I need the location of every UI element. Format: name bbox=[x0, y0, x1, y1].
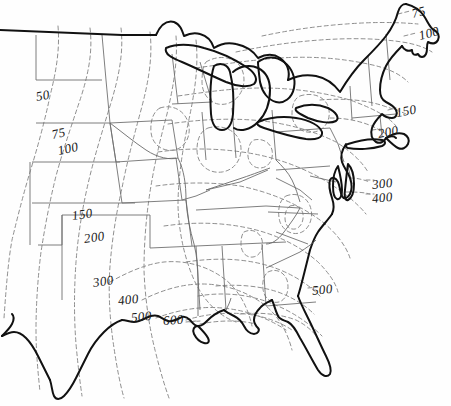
ohio-river bbox=[206, 168, 270, 190]
border-ny-nj bbox=[330, 128, 338, 144]
border-nh-me bbox=[386, 34, 390, 80]
contour-600b bbox=[200, 321, 256, 324]
contour-ne-150 bbox=[196, 57, 408, 82]
contour-loop-al bbox=[263, 270, 288, 302]
contour-label-75-1: 75 bbox=[50, 124, 67, 143]
border-va-nc bbox=[268, 212, 318, 214]
rio-grande bbox=[2, 332, 50, 380]
contour-label-600-8: 600 bbox=[162, 312, 184, 329]
contour-e-250 bbox=[168, 119, 368, 172]
contour-label-500-7: 500 bbox=[130, 308, 152, 326]
missouri-river bbox=[110, 123, 178, 159]
border-ne-ia bbox=[110, 123, 116, 162]
border-sc-ga bbox=[266, 252, 300, 268]
texas-coast bbox=[50, 320, 122, 399]
border-mo-ar bbox=[122, 200, 186, 203]
border-mn-ia bbox=[110, 120, 172, 123]
contour-400b bbox=[198, 294, 322, 336]
contour-loop-app bbox=[279, 194, 312, 233]
border-wv-va bbox=[276, 178, 312, 200]
border-canada-ne bbox=[288, 4, 406, 92]
contour-loop-ia bbox=[151, 107, 189, 151]
contour-tick-75ne bbox=[398, 11, 410, 14]
border-tn-nc bbox=[266, 206, 300, 208]
border-canada-west bbox=[0, 30, 156, 35]
contour-ne-75 bbox=[262, 23, 418, 37]
contour-label-400-11: 400 bbox=[371, 189, 393, 207]
contour-label-500-9: 500 bbox=[311, 281, 333, 299]
contour-label-50-0: 50 bbox=[35, 87, 51, 105]
lake-michigan bbox=[210, 64, 233, 130]
contour-label-200-4: 200 bbox=[83, 228, 106, 247]
border-ar-la bbox=[150, 246, 196, 248]
great-lakes-north bbox=[156, 22, 289, 80]
contour-map-figure: 5075100150200300400500600500300400150200… bbox=[0, 0, 451, 406]
contour-loop-ny bbox=[292, 94, 329, 132]
contour-label-400-6: 400 bbox=[117, 291, 139, 309]
border-vt-nh bbox=[368, 56, 372, 106]
contour-200 bbox=[144, 36, 176, 398]
contour-label-300-5: 300 bbox=[92, 272, 115, 291]
contour-tick-100ne bbox=[404, 33, 416, 36]
mississippi-delta bbox=[193, 326, 209, 343]
contour-label-150-3: 150 bbox=[71, 205, 94, 224]
border-dakota-e bbox=[102, 35, 110, 123]
border-il-in bbox=[202, 112, 206, 160]
border-ny-vt bbox=[350, 86, 352, 120]
border-ks-e bbox=[116, 162, 122, 203]
contour-50 bbox=[4, 26, 59, 318]
border-ky-tn bbox=[196, 206, 266, 210]
contour-lines bbox=[4, 11, 432, 398]
border-mn-wi bbox=[172, 54, 178, 104]
border-ia-il bbox=[172, 120, 178, 158]
